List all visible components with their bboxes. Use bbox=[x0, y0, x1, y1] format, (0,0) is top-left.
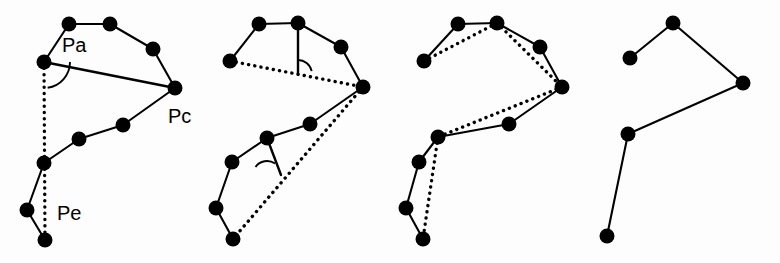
polyline-vertex bbox=[20, 203, 35, 218]
polyline-vertex bbox=[600, 229, 615, 244]
polyline-vertex bbox=[72, 132, 87, 147]
point-label-pa: Pa bbox=[62, 34, 87, 56]
original-polyline-with-anchors bbox=[20, 17, 183, 248]
polyline-vertex bbox=[226, 232, 241, 247]
polyline-edge bbox=[607, 134, 628, 236]
polyline-vertex bbox=[252, 17, 267, 32]
polyline-vertex bbox=[291, 16, 306, 31]
angle-arc bbox=[256, 161, 276, 167]
dotted-chord bbox=[44, 62, 45, 240]
polyline-vertex bbox=[334, 40, 349, 55]
polyline-vertex bbox=[416, 232, 431, 247]
polyline-vertex bbox=[399, 201, 414, 216]
polyline-vertex bbox=[62, 17, 77, 32]
polyline-vertex bbox=[451, 17, 466, 32]
polyline-edge bbox=[630, 23, 673, 58]
polyline-vertex bbox=[621, 127, 636, 142]
polyline-vertex bbox=[533, 40, 548, 55]
polyline-vertex bbox=[146, 42, 161, 57]
polyline-vertex bbox=[502, 117, 517, 132]
polyline-edge bbox=[310, 87, 363, 124]
polyline-vertex bbox=[666, 16, 681, 31]
point-label-pe: Pe bbox=[57, 202, 81, 224]
candidate-chords-overlay bbox=[399, 16, 570, 247]
polyline-vertex bbox=[37, 156, 52, 171]
point-label-pc: Pc bbox=[168, 105, 191, 127]
polyline-edge bbox=[628, 83, 743, 134]
dotted-chord bbox=[230, 61, 363, 87]
polyline-vertex bbox=[356, 80, 371, 95]
polyline-vertex bbox=[412, 155, 427, 170]
polyline-vertex bbox=[116, 118, 131, 133]
polyline-vertex bbox=[223, 54, 238, 69]
polyline-vertex bbox=[303, 117, 318, 132]
polyline-vertex bbox=[417, 54, 432, 69]
perpendicular-error-measurement bbox=[209, 16, 371, 247]
dotted-chord bbox=[438, 87, 562, 137]
simplified-polyline-result bbox=[600, 16, 751, 244]
polyline-vertex bbox=[490, 16, 505, 31]
polyline-edge bbox=[424, 24, 458, 61]
polyline-edge bbox=[509, 87, 562, 124]
panels-layer bbox=[20, 16, 751, 248]
polyline-vertex bbox=[168, 81, 183, 96]
polyline-simplification-diagram: Pa Pc Pe bbox=[0, 0, 780, 263]
polyline-vertex bbox=[103, 17, 118, 32]
polyline-vertex bbox=[38, 233, 53, 248]
figure-root: Pa Pc Pe bbox=[0, 0, 780, 263]
polyline-vertex bbox=[260, 131, 275, 146]
polyline-vertex bbox=[37, 55, 52, 70]
polyline-vertex bbox=[431, 130, 446, 145]
dotted-chord bbox=[233, 87, 363, 239]
angle-arc bbox=[298, 60, 312, 71]
dotted-chord bbox=[497, 23, 562, 87]
polyline-vertex bbox=[736, 76, 751, 91]
solid-chord bbox=[44, 62, 175, 88]
polyline-vertex bbox=[225, 155, 240, 170]
polyline-edge bbox=[673, 23, 743, 83]
polyline-vertex bbox=[555, 80, 570, 95]
polyline-edge bbox=[438, 124, 509, 137]
polyline-vertex bbox=[623, 51, 638, 66]
polyline-vertex bbox=[209, 201, 224, 216]
